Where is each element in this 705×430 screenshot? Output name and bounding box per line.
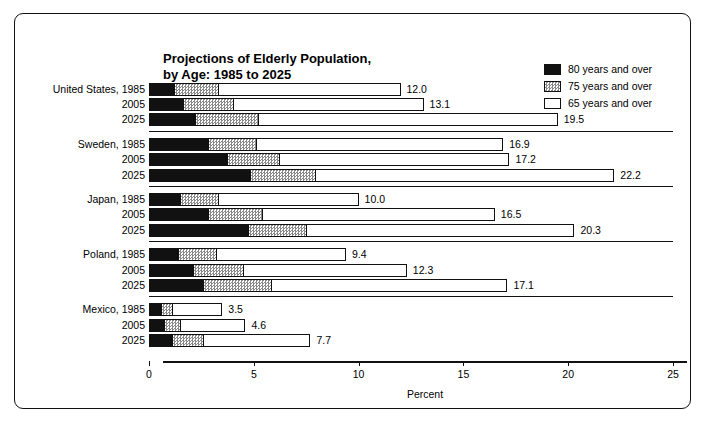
bar-segment-s65 [218,83,400,96]
bar-mexico-2025 [149,334,310,347]
group-separator-line [149,186,673,188]
bar-segment-s65 [256,138,503,151]
bar-sweden-2025 [149,169,614,182]
bar-united-states-2025 [149,113,558,126]
bar-segment-s75 [183,98,233,111]
bar-segment-s80 [149,334,172,347]
x-tick-label: 20 [548,368,588,380]
chart-frame: Projections of Elderly Population, by Ag… [14,13,691,409]
bar-segment-s65 [306,224,574,237]
y-axis-label-mexico-1985: Mexico, 1985 [25,303,145,316]
bar-segment-s80 [149,264,193,277]
bar-poland-2025 [149,279,507,292]
chart-title: Projections of Elderly Population, by Ag… [163,51,371,83]
bar-segment-s65 [258,113,558,126]
bar-segment-s80 [149,113,195,126]
bar-segment-s80 [149,153,227,166]
legend-label-75-plus: 75 years and over [568,80,652,92]
legend-swatch-icon-80-plus [544,64,561,75]
bar-mexico-2005 [149,319,245,332]
bar-value-label: 17.1 [513,279,533,292]
bar-segment-s65 [271,279,508,292]
bar-segment-s65 [315,169,615,182]
x-tick-label: 25 [653,368,693,380]
x-tick-mark [359,361,360,366]
bar-segment-s80 [149,248,178,261]
bar-poland-1985 [149,248,346,261]
bar-japan-2005 [149,208,495,221]
bar-segment-s80 [149,83,174,96]
chart-title-line-1: Projections of Elderly Population, [163,51,371,67]
bar-united-states-1985 [149,83,401,96]
y-axis-label-sweden-1985: Sweden, 1985 [25,138,145,151]
y-axis-label-united-states-1985: United States, 1985 [25,83,145,96]
bar-value-label: 10.0 [365,193,385,206]
bar-value-label: 12.3 [413,264,433,277]
bar-segment-s75 [174,83,218,96]
bar-segment-s80 [149,279,203,292]
x-tick-label: 5 [234,368,274,380]
bar-mexico-1985 [149,303,222,316]
bar-segment-s80 [149,169,250,182]
bar-segment-s75 [208,208,262,221]
legend-swatch-icon-75-plus [544,81,561,92]
chart-legend: 80 years and over 75 years and over 65 y… [544,62,652,113]
bar-segment-s80 [149,224,248,237]
x-axis-title: Percent [163,388,687,400]
bar-japan-1985 [149,193,359,206]
bar-value-label: 20.3 [580,224,600,237]
chart-screenshot: Projections of Elderly Population, by Ag… [0,0,705,430]
legend-label-65-plus: 65 years and over [568,97,652,109]
y-axis-label-poland-2005: 2005 [25,264,145,277]
y-axis-label-japan-1985: Japan, 1985 [25,193,145,206]
legend-label-80-plus: 80 years and over [568,63,652,75]
bar-segment-s80 [149,98,183,111]
x-axis-line [163,361,687,363]
y-axis-label-poland-1985: Poland, 1985 [25,248,145,261]
bar-segment-s75 [227,153,279,166]
group-separator-line [149,131,673,133]
y-axis-label-united-states-2025: 2025 [25,113,145,126]
bar-japan-2025 [149,224,574,237]
legend-item-75-plus: 75 years and over [544,79,652,93]
bar-value-label: 3.5 [228,303,243,316]
x-tick-mark [254,361,255,366]
x-tick-mark [568,361,569,366]
bar-segment-s65 [180,319,245,332]
bar-segment-s65 [172,303,222,316]
y-axis-label-united-states-2005: 2005 [25,98,145,111]
x-tick-label: 15 [443,368,483,380]
x-tick-mark [149,361,150,366]
x-tick-label: 10 [339,368,379,380]
bar-value-label: 7.7 [316,334,331,347]
x-tick-mark [463,361,464,366]
x-tick-mark [673,361,674,366]
bar-sweden-2005 [149,153,510,166]
bar-value-label: 13.1 [430,98,450,111]
bar-segment-s80 [149,208,208,221]
bar-segment-s65 [203,334,310,347]
bar-segment-s65 [262,208,495,221]
bar-value-label: 16.5 [501,208,521,221]
bar-segment-s75 [248,224,307,237]
bar-segment-s75 [208,138,256,151]
bar-value-label: 17.2 [516,153,536,166]
legend-item-80-plus: 80 years and over [544,62,652,76]
bar-segment-s80 [149,319,164,332]
bar-segment-s65 [279,153,510,166]
bar-segment-s75 [178,248,216,261]
bar-segment-s80 [149,193,180,206]
group-separator-line [149,241,673,243]
y-axis-label-poland-2025: 2025 [25,279,145,292]
y-axis-label-japan-2025: 2025 [25,224,145,237]
x-tick-label: 0 [129,368,169,380]
legend-item-65-plus: 65 years and over [544,96,652,110]
legend-swatch-icon-65-plus [544,98,561,109]
y-axis-label-mexico-2025: 2025 [25,334,145,347]
bar-segment-s65 [216,248,346,261]
bar-segment-s75 [195,113,258,126]
bar-value-label: 16.9 [509,138,529,151]
bar-segment-s80 [149,138,208,151]
bar-segment-s65 [233,98,424,111]
bar-segment-s65 [243,264,406,277]
